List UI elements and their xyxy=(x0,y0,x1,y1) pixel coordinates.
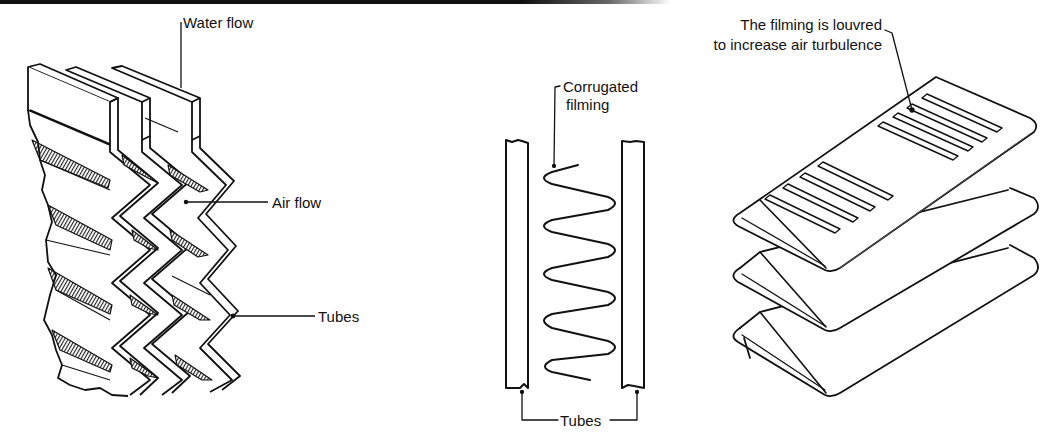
leader-lines-fig1 xyxy=(181,22,315,318)
right-tube-wall xyxy=(622,141,644,388)
label-tubes-core: Tubes xyxy=(318,308,359,325)
label-corrugated-line2: filming xyxy=(566,96,609,113)
leader-lines-fig2 xyxy=(521,86,639,420)
corrugated-fin xyxy=(544,165,615,380)
label-water-flow: Water flow xyxy=(183,14,253,31)
label-tubes-section: Tubes xyxy=(560,412,601,429)
leader-line-fig3 xyxy=(885,30,914,112)
figure-louvred-filming xyxy=(733,30,1038,396)
left-tube-wall xyxy=(506,140,528,388)
figure-corrugated-section xyxy=(506,86,644,420)
label-air-flow: Air flow xyxy=(272,194,321,211)
label-louvre-line1: The filming is louvred xyxy=(712,16,882,33)
label-corrugated-line1: Corrugated xyxy=(563,78,638,95)
tube-tops xyxy=(28,64,200,145)
label-louvre-line2: to increase air turbulence xyxy=(690,36,882,53)
